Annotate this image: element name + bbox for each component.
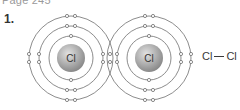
formula-right-atom: Cl (226, 50, 236, 62)
right-nucleus-label: Cl (144, 53, 153, 64)
formula-left-atom: Cl (202, 50, 212, 62)
single-bond-line (214, 56, 224, 57)
electrons (27, 14, 192, 101)
structural-formula: Cl Cl (202, 50, 237, 62)
left-nucleus-label: Cl (66, 53, 75, 64)
